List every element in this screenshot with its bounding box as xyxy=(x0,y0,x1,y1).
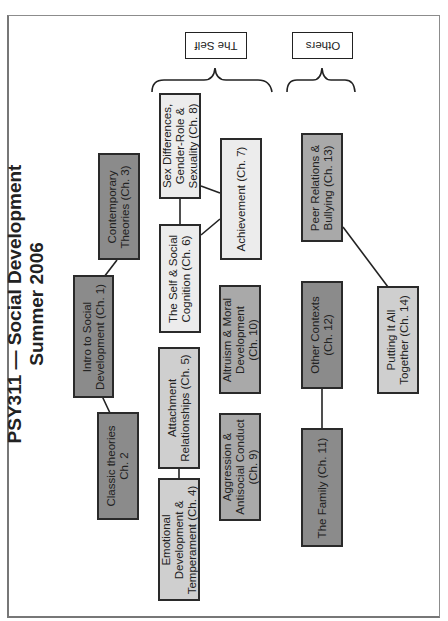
node-ch1-intro: Intro to Social Development (Ch. 1) xyxy=(73,275,114,398)
node-ch3-contemporary-theories: Contemporary Theories (Ch. 3) xyxy=(98,153,140,260)
node-ch13-peer-relations: Peer Relations & Bullying (Ch. 13) xyxy=(301,133,343,242)
group-label-the-self: The Self xyxy=(185,32,247,59)
node-ch10-altruism: Altruism & Moral Development (Ch. 10) xyxy=(219,285,261,394)
node-ch12-other-contexts: Other Contexts (Ch. 12) xyxy=(301,281,343,389)
connector-self-achievement xyxy=(201,219,220,235)
group-label-others: Others xyxy=(292,32,353,59)
node-ch6-self-social-cognition: The Self & Social Cognition (Ch. 6) xyxy=(159,224,201,333)
node-ch5-attachment: Attachment Relationships (Ch. 5) xyxy=(158,347,200,469)
connector-peer-putting xyxy=(343,227,388,287)
brace-the-self xyxy=(152,68,272,92)
node-ch11-family: The Family (Ch. 11) xyxy=(301,428,343,547)
node-ch4-emotional-development: Emotional Development & Temperament (Ch.… xyxy=(158,478,200,601)
connector-intro-classic xyxy=(102,396,110,413)
node-ch8-sex-differences: Sex Differences, Gender-Role & Sexuality… xyxy=(159,93,201,199)
node-ch7-achievement: Achievement (Ch. 7) xyxy=(220,138,262,260)
node-ch9-aggression: Aggression & Antisocial Conduct (Ch. 9) xyxy=(219,413,261,521)
connector-sexdiff-achievement xyxy=(201,186,220,193)
node-ch2-classic-theories: Classic theories Ch. 2 xyxy=(97,412,139,520)
node-ch14-putting-it-all-together: Putting It All Together (Ch. 14) xyxy=(377,286,419,394)
brace-others xyxy=(287,68,355,92)
